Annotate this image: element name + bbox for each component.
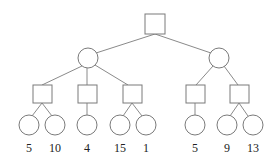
root-decision-node xyxy=(145,14,165,34)
leaf-value: 1 xyxy=(143,141,149,155)
edge xyxy=(95,65,128,85)
leaf-value: 15 xyxy=(114,141,126,155)
leaf-node xyxy=(136,115,156,135)
leaf-node xyxy=(110,115,130,135)
decision-node xyxy=(186,85,205,103)
decision-node xyxy=(33,85,52,103)
edge-root-right xyxy=(155,34,211,53)
edges xyxy=(32,34,248,116)
chance-node-left xyxy=(78,48,98,68)
leaf-node xyxy=(185,115,205,135)
leaf-value: 9 xyxy=(224,141,230,155)
decision-node xyxy=(230,85,249,103)
leaf-value: 5 xyxy=(26,141,32,155)
leaf-value: 4 xyxy=(84,141,90,155)
edge xyxy=(132,103,142,116)
leaf-value: 10 xyxy=(49,141,61,155)
edge xyxy=(239,103,248,116)
leaf-node xyxy=(243,115,263,135)
leaf-node xyxy=(217,115,237,135)
game-tree-diagram: 5 10 4 15 1 5 9 13 xyxy=(0,0,278,159)
edge xyxy=(196,66,213,85)
leaf-node xyxy=(77,115,97,135)
leaf-value: 5 xyxy=(192,141,198,155)
edge xyxy=(224,66,238,85)
leaf-value: 13 xyxy=(247,141,259,155)
decision-node xyxy=(78,85,97,103)
edge xyxy=(42,103,52,116)
leaf-node xyxy=(45,115,65,135)
edge-root-left xyxy=(96,34,155,53)
chance-node-right xyxy=(209,48,229,68)
decision-node xyxy=(123,85,142,103)
edge xyxy=(230,103,239,116)
edge xyxy=(42,66,82,85)
edge xyxy=(32,103,42,116)
leaf-node xyxy=(19,115,39,135)
edge xyxy=(123,103,132,116)
